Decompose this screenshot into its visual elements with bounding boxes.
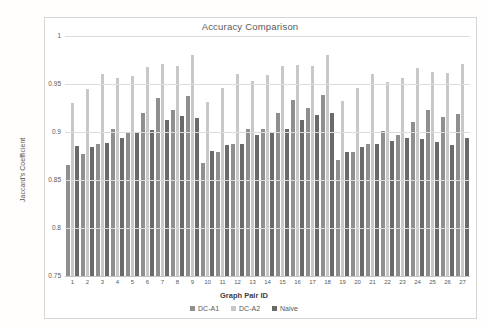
bar-dc-a2 <box>251 81 254 276</box>
bar-dc-a1 <box>186 96 189 276</box>
bar-dc-a2 <box>371 74 374 276</box>
bar-naive <box>315 115 318 276</box>
gridline <box>65 132 470 133</box>
x-tick-label: 13 <box>245 279 260 285</box>
bar-group <box>290 36 305 276</box>
bar-dc-a1 <box>216 152 219 276</box>
bar-dc-a1 <box>276 113 279 276</box>
bar-naive <box>195 118 198 276</box>
bar-naive <box>465 138 468 276</box>
y-tick-label: 0.8 <box>31 224 61 231</box>
x-tick-label: 2 <box>80 279 95 285</box>
bar-dc-a2 <box>461 64 464 276</box>
bar-dc-a1 <box>366 144 369 276</box>
bar-dc-a1 <box>156 98 159 276</box>
x-tick-label: 1 <box>65 279 80 285</box>
bar-group <box>185 36 200 276</box>
bar-dc-a1 <box>96 144 99 276</box>
plot-area: 10.950.90.850.80.75 <box>65 36 470 276</box>
bar-dc-a1 <box>336 160 339 276</box>
bar-naive <box>255 135 258 276</box>
x-tick-label: 20 <box>350 279 365 285</box>
x-axis-title: Graph Pair ID <box>44 291 444 300</box>
bar-dc-a2 <box>281 66 284 276</box>
x-tick-label: 3 <box>95 279 110 285</box>
bar-naive <box>225 145 228 276</box>
bar-naive <box>180 116 183 276</box>
bar-dc-a1 <box>306 108 309 276</box>
bar-dc-a1 <box>261 129 264 276</box>
bar-dc-a2 <box>326 55 329 276</box>
bar-naive <box>210 151 213 276</box>
bar-group <box>215 36 230 276</box>
bar-dc-a2 <box>86 89 89 276</box>
bar-dc-a1 <box>66 165 69 276</box>
bar-group <box>80 36 95 276</box>
bar-naive <box>75 146 78 276</box>
bar-group <box>440 36 455 276</box>
bar-group <box>155 36 170 276</box>
bar-naive <box>300 120 303 276</box>
bar-dc-a1 <box>141 113 144 276</box>
bar-naive <box>360 147 363 276</box>
legend-marker <box>231 306 236 311</box>
bar-dc-a2 <box>311 66 314 276</box>
bar-naive <box>405 138 408 276</box>
y-tick-label: 0.9 <box>31 128 61 135</box>
bar-dc-a1 <box>456 114 459 276</box>
bar-dc-a1 <box>126 132 129 276</box>
x-tick-label: 26 <box>440 279 455 285</box>
x-tick-label: 11 <box>215 279 230 285</box>
bar-naive <box>150 130 153 276</box>
bar-dc-a2 <box>236 74 239 276</box>
x-tick-label: 16 <box>290 279 305 285</box>
legend-item-dc-a2: DC-A2 <box>231 305 260 312</box>
bar-dc-a2 <box>266 75 269 276</box>
bar-group <box>170 36 185 276</box>
x-tick-label: 18 <box>320 279 335 285</box>
legend-marker <box>272 306 277 311</box>
y-axis-title: Jaccard's Coefficient <box>10 100 34 240</box>
x-tick-label: 15 <box>275 279 290 285</box>
bar-group <box>455 36 470 276</box>
bar-naive <box>345 152 348 276</box>
chart-title: Accuracy Comparison <box>44 21 456 32</box>
legend-item-naive: Naive <box>272 305 298 312</box>
x-tick-label: 24 <box>410 279 425 285</box>
bar-naive <box>330 113 333 276</box>
bar-naive <box>435 142 438 276</box>
bar-dc-a2 <box>356 88 359 276</box>
legend-label: Naive <box>280 305 298 312</box>
bar-dc-a2 <box>146 67 149 276</box>
bar-dc-a1 <box>381 131 384 276</box>
bar-group <box>140 36 155 276</box>
x-tick-label: 21 <box>365 279 380 285</box>
bar-dc-a2 <box>341 101 344 276</box>
page-background: Accuracy Comparison Jaccard's Coefficien… <box>0 0 486 326</box>
legend-label: DC-A2 <box>239 305 260 312</box>
bar-dc-a2 <box>71 103 74 276</box>
legend: DC-A1DC-A2Naive <box>44 305 444 312</box>
x-tick-label: 12 <box>230 279 245 285</box>
bar-dc-a1 <box>171 110 174 276</box>
bar-group <box>425 36 440 276</box>
bar-dc-a2 <box>191 55 194 276</box>
bar-dc-a2 <box>296 65 299 276</box>
bar-dc-a1 <box>321 95 324 276</box>
bar-groups-container <box>65 36 470 276</box>
y-tick-label: 0.85 <box>31 176 61 183</box>
bar-dc-a1 <box>231 144 234 276</box>
x-tick-label: 10 <box>200 279 215 285</box>
bar-dc-a2 <box>206 102 209 276</box>
x-tick-labels: 1234567891011121314151617181920212223242… <box>65 279 470 285</box>
bar-dc-a2 <box>446 73 449 276</box>
gridline <box>65 180 470 181</box>
bar-dc-a2 <box>101 74 104 276</box>
bar-naive <box>165 120 168 276</box>
y-tick-label: 0.95 <box>31 80 61 87</box>
x-tick-label: 23 <box>395 279 410 285</box>
bar-dc-a2 <box>401 78 404 276</box>
x-tick-label: 27 <box>455 279 470 285</box>
bar-group <box>395 36 410 276</box>
bar-dc-a2 <box>161 64 164 276</box>
